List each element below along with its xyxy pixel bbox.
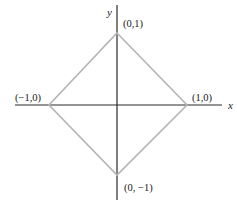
coordinate-diagram: y x (0,1) (−1,0) (1,0) (0, −1) <box>0 0 237 205</box>
vertex-label-left: (−1,0) <box>15 92 42 104</box>
vertex-label-right: (1,0) <box>192 92 213 104</box>
unit-diamond <box>49 33 187 175</box>
vertex-label-top: (0,1) <box>123 18 144 30</box>
vertex-label-bottom: (0, −1) <box>124 182 153 194</box>
x-axis-label: x <box>227 99 233 111</box>
y-axis-label: y <box>106 6 112 18</box>
